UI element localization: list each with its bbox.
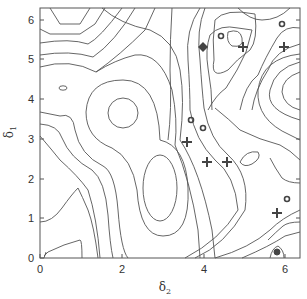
circle-marker: [280, 22, 285, 27]
y-tick-label: 6: [28, 14, 34, 26]
y-tick-label: 4: [28, 93, 34, 105]
y-tick-label: 3: [28, 133, 34, 145]
contour-lines: [40, 8, 300, 258]
filled-circle-marker: [274, 249, 280, 255]
y-tick-label: 0: [28, 252, 34, 264]
x-tick-label: 2: [119, 263, 125, 275]
y-tick-label: 2: [28, 173, 34, 185]
y-tick-label: 1: [28, 212, 34, 224]
filled-diamond-marker: [198, 42, 208, 52]
circle-marker: [285, 197, 290, 202]
circle-marker: [189, 118, 194, 123]
circle-marker: [201, 126, 206, 131]
plus-marker: [279, 42, 289, 52]
y-axis-label: δ1: [2, 126, 18, 138]
x-tick-label: 0: [37, 263, 43, 275]
x-tick-label: 6: [282, 263, 288, 275]
plus-marker: [272, 208, 282, 218]
x-axis: 0 2 4 6 δ2: [37, 254, 288, 296]
contour-chart: 0 2 4 6 δ2 6 5 4 3 2 1 0 δ1: [0, 0, 307, 299]
plus-marker: [222, 157, 232, 167]
circle-marker: [219, 34, 224, 39]
y-tick-label: 5: [28, 53, 34, 65]
plus-marker: [202, 157, 212, 167]
y-axis: 6 5 4 3 2 1 0 δ1: [2, 14, 300, 264]
x-tick-label: 4: [201, 263, 207, 275]
markers: [182, 22, 290, 256]
x-axis-label: δ2: [159, 280, 171, 296]
